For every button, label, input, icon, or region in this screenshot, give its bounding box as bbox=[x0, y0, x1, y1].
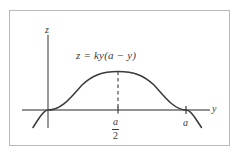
fraction-denominator: 2 bbox=[112, 131, 119, 142]
fraction-a-over-2: a 2 bbox=[112, 117, 119, 141]
tick-label-a-over-2: a 2 bbox=[112, 117, 119, 141]
curve-equation-label: z = ky(a − y) bbox=[76, 50, 136, 61]
plot-canvas bbox=[0, 0, 241, 157]
z-axis-label: z bbox=[45, 25, 49, 35]
fraction-numerator: a bbox=[112, 117, 119, 128]
figure-container: z = ky(a − y) z y a a 2 bbox=[0, 0, 241, 157]
y-axis-label: y bbox=[212, 104, 216, 114]
tick-label-a: a bbox=[183, 118, 188, 128]
